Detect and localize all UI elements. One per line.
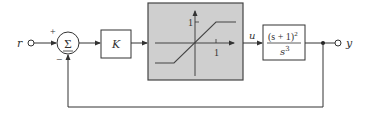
gain-label: K [111, 38, 121, 51]
output-terminal [335, 40, 341, 46]
minus-sign: − [56, 53, 62, 65]
block-diagram: r Σ + − K 1 1 u (s + 1)2 s3 [0, 0, 365, 115]
saturation-block: 1 1 [148, 3, 243, 80]
plus-sign: + [50, 26, 56, 37]
y-tick-label: 1 [188, 17, 193, 28]
input-label-r: r [17, 37, 23, 50]
plant-numerator: (s + 1)2 [268, 30, 298, 43]
output-label-y: y [345, 37, 353, 50]
plant-block: (s + 1)2 s3 [263, 25, 305, 60]
gain-block: K [101, 30, 131, 58]
signal-u-label: u [249, 30, 255, 41]
x-tick-label: 1 [214, 47, 219, 58]
sigma-symbol: Σ [64, 36, 72, 51]
summing-junction: Σ [57, 32, 79, 54]
input-terminal [28, 40, 34, 46]
